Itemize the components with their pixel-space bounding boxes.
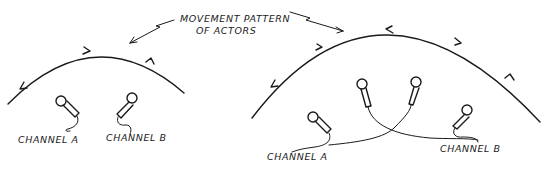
microphone-icon — [357, 79, 371, 107]
arrow-icon — [271, 80, 278, 87]
arrow-icon — [146, 58, 154, 64]
channel-b-label: CHANNEL B — [440, 143, 501, 154]
arrow-icon — [20, 82, 27, 89]
annotation: MOVEMENT PATTERN OF ACTORS — [180, 13, 290, 36]
arrow-icon — [505, 74, 514, 80]
annotation-line1: MOVEMENT PATTERN — [180, 13, 290, 24]
annotation-arrow-left — [130, 20, 174, 43]
channel-b-label: CHANNEL B — [106, 132, 167, 143]
arrow-icon — [316, 44, 322, 50]
microphone-icon — [308, 112, 331, 133]
microphone-icon — [409, 77, 421, 105]
movement-arc — [8, 57, 184, 104]
movement-pattern-diagram: MOVEMENT PATTERN OF ACTORS CHANNEL A CHA… — [0, 0, 549, 169]
microphone-icon — [56, 96, 79, 131]
channel-a-cable — [292, 105, 411, 152]
arrow-icon — [455, 38, 461, 45]
annotation-line2: OF ACTORS — [196, 25, 256, 36]
right-setup: CHANNEL A CHANNEL B — [252, 26, 540, 162]
arrow-icon — [83, 47, 90, 54]
channel-a-label: CHANNEL A — [267, 151, 328, 162]
channel-a-label: CHANNEL A — [18, 134, 79, 145]
movement-arc — [252, 35, 540, 122]
arrow-icon — [386, 26, 393, 33]
annotation-arrow-right — [290, 12, 343, 33]
left-setup: CHANNEL A CHANNEL B — [8, 47, 184, 145]
microphone-icon — [117, 93, 137, 134]
microphone-icon — [453, 105, 472, 129]
